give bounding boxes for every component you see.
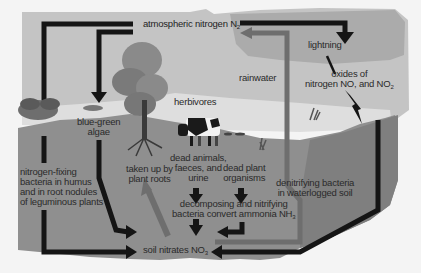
label-text: bacteria convert ammonia NH bbox=[172, 208, 292, 219]
label-denitrifying-bacteria: denitrifying bacteria in waterlogged soi… bbox=[276, 178, 354, 198]
label-taken-up-by-plant-roots: taken up by plant roots bbox=[126, 164, 173, 184]
subscript: 2 bbox=[237, 24, 240, 30]
label-dead-animals: dead animals, faeces, and urine bbox=[170, 153, 227, 183]
label-line: in waterlogged soil bbox=[276, 188, 354, 198]
label-lightning: lightning bbox=[308, 40, 342, 50]
subscript: 3 bbox=[205, 250, 208, 256]
label-line: urine bbox=[170, 173, 227, 183]
label-dead-plant-organisms: dead plant organisms bbox=[223, 163, 265, 183]
label-line: plant roots bbox=[126, 174, 173, 184]
label-herbivores: herbivores bbox=[174, 97, 216, 107]
cloud bbox=[230, 10, 405, 64]
label-nitrogen-fixing-bacteria: nitrogen-fixing bacteria in humus and in… bbox=[20, 167, 103, 207]
label-oxides-of-nitrogen: oxides of nitrogen NO, and NO2 bbox=[305, 69, 394, 92]
subscript: 3 bbox=[292, 214, 295, 220]
label-line: bacteria convert ammonia NH3 bbox=[172, 209, 295, 222]
label-text: nitrogen NO, and NO bbox=[305, 78, 390, 89]
label-decomposing-bacteria: decomposing and nitrifying bacteria conv… bbox=[172, 199, 295, 222]
label-rainwater: rainwater bbox=[239, 73, 276, 83]
label-text: atmospheric nitrogen N bbox=[143, 18, 237, 29]
label-line: algae bbox=[77, 127, 120, 137]
label-text: soil nitrates NO bbox=[143, 244, 205, 255]
algae-illustration bbox=[83, 105, 103, 111]
label-soil-nitrates: soil nitrates NO3 bbox=[143, 245, 208, 258]
label-atmospheric-nitrogen: atmospheric nitrogen N2 bbox=[143, 19, 240, 32]
label-line: nitrogen NO, and NO2 bbox=[305, 79, 394, 92]
label-blue-green-algae: blue-green algae bbox=[77, 117, 120, 137]
subscript: 2 bbox=[390, 84, 393, 90]
label-line: of leguminous plants bbox=[20, 197, 103, 207]
label-line: organisms bbox=[223, 173, 265, 183]
nitrogen-cycle-diagram bbox=[0, 0, 421, 273]
